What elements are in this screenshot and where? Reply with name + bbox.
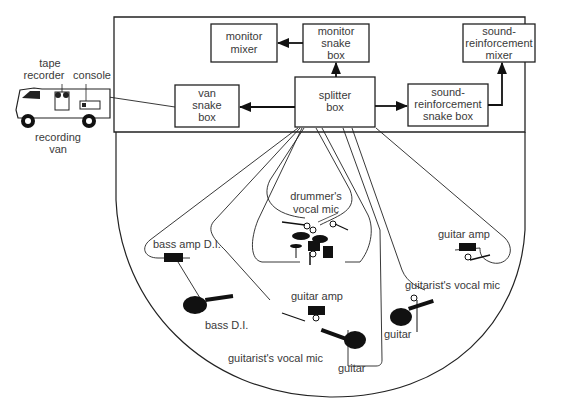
svg-text:sound-: sound- [482,25,516,37]
svg-text:reinforcement: reinforcement [465,37,532,49]
svg-text:sound-: sound- [431,86,465,98]
console-label: console [73,69,111,81]
svg-text:monitor: monitor [318,25,355,37]
guitar-amp-center-label: guitar amp [291,290,343,302]
guitar-right-icon [390,295,434,332]
svg-text:mixer: mixer [486,49,513,61]
monitor-snake-box: monitor snake box [303,24,369,62]
svg-text:monitor: monitor [226,30,263,42]
tape-recorder-label-2: recorder [24,69,65,81]
guitar-amp-center-icon [308,306,325,315]
guitarists-vocal-mic-center-label: guitarist's vocal mic [228,352,324,364]
guitar-center-label: guitar [338,362,366,374]
drummers-vocal-mic-label-2: vocal mic [293,203,339,215]
recording-van-label: recording [35,131,81,143]
splitter-box: splitter box [295,77,375,127]
svg-text:box: box [327,49,345,61]
signal-flow-diagram: monitor mixer monitor snake box sound- r… [0,0,566,405]
bass-amp-di-icon [164,253,183,262]
recording-van-icon [16,84,110,128]
guitar-amp-right-mic-icon [465,254,490,260]
guitar-amp-right-label: guitar amp [438,228,490,240]
sound-reinforcement-snake-box: sound- reinforcement snake box [408,84,488,126]
guitar-amp-right-icon [459,243,476,251]
tape-recorder-label: tape [39,57,60,69]
svg-text:snake box: snake box [423,110,474,122]
recording-van-label-2: van [49,143,67,155]
bass-amp-di-label: bass amp D.I. [153,238,221,250]
svg-text:splitter: splitter [319,89,352,101]
svg-text:mixer: mixer [231,43,258,55]
svg-text:box: box [198,111,216,123]
svg-text:snake: snake [192,99,221,111]
svg-text:box: box [326,101,344,113]
guitar-center-icon [321,328,366,349]
guitar-right-label: guitar [384,328,412,340]
sound-reinforcement-mixer-box: sound- reinforcement mixer [463,24,535,62]
monitor-mixer-box: monitor mixer [211,24,277,62]
svg-text:snake: snake [321,37,350,49]
svg-text:reinforcement: reinforcement [414,98,481,110]
svg-text:van: van [198,87,216,99]
van-snake-box: van snake box [175,85,239,127]
guitarists-vocal-mic-right-label: guitarist's vocal mic [405,279,501,291]
drum-kit-icon [282,213,348,265]
bass-di-label: bass D.I. [205,319,248,331]
drummers-vocal-mic-label: drummer's [290,190,342,202]
bass-guitar-icon [183,294,233,314]
